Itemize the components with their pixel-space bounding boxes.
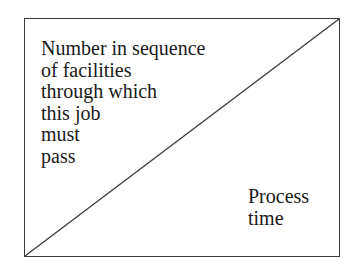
label-line: through which [41,81,205,103]
label-line: this job [41,103,205,125]
process-time-label: Processtime [248,186,309,229]
label-line: Number in sequence [41,38,205,60]
label-line: pass [41,146,205,168]
label-line: time [248,208,309,230]
sequence-label: Number in sequenceof facilitiesthrough w… [41,38,205,167]
label-line: of facilities [41,60,205,82]
label-line: must [41,124,205,146]
label-line: Process [248,186,309,208]
